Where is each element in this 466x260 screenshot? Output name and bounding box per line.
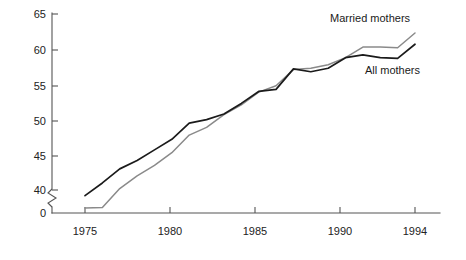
x-tick-label-1994: 1994 <box>403 225 427 237</box>
y-tick-label-65: 65 <box>34 8 46 20</box>
x-tick-label-1975: 1975 <box>73 225 97 237</box>
y-tick-label-55: 55 <box>34 80 46 92</box>
y-axis-break-zigzag <box>48 189 56 207</box>
line-chart: 65 60 55 50 45 40 0 1975 1980 1985 1990 … <box>0 0 466 260</box>
all-mothers-label: All mothers <box>365 64 421 76</box>
x-tick-marks <box>85 207 415 213</box>
x-tick-label-1985: 1985 <box>243 225 267 237</box>
y-tick-label-0: 0 <box>40 207 46 219</box>
y-tick-labels: 65 60 55 50 45 40 0 <box>34 8 46 219</box>
chart-container: 65 60 55 50 45 40 0 1975 1980 1985 1990 … <box>0 0 466 260</box>
y-tick-label-40: 40 <box>34 184 46 196</box>
y-tick-marks <box>52 14 58 190</box>
series-line-all-mothers <box>85 33 415 208</box>
y-tick-label-60: 60 <box>34 44 46 56</box>
x-tick-label-1990: 1990 <box>328 225 352 237</box>
y-tick-label-45: 45 <box>34 150 46 162</box>
x-tick-label-1980: 1980 <box>158 225 182 237</box>
y-tick-label-50: 50 <box>34 115 46 127</box>
married-mothers-label: Married mothers <box>330 12 411 24</box>
x-tick-labels: 1975 1980 1985 1990 1994 <box>73 225 427 237</box>
